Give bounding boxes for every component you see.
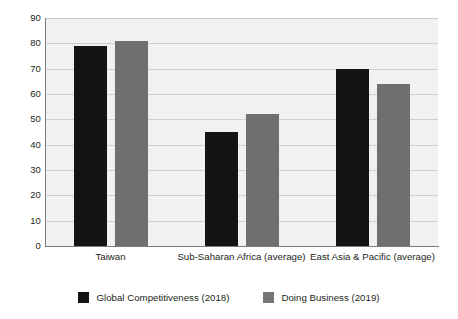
y-axis-tick-label: 70	[3, 64, 41, 74]
legend-entry: Doing Business (2019)	[263, 292, 379, 303]
legend-swatch-icon	[78, 292, 89, 303]
bar	[74, 46, 107, 246]
y-axis-tick-label: 80	[3, 38, 41, 48]
legend-entry: Global Competitiveness (2018)	[78, 292, 229, 303]
bar	[336, 69, 369, 246]
y-axis-tick-label: 90	[3, 13, 41, 23]
bars-layer	[45, 18, 438, 246]
bar	[205, 132, 238, 246]
y-axis-tick-label: 20	[3, 190, 41, 200]
y-axis-tick-label: 50	[3, 114, 41, 124]
legend-swatch-icon	[263, 292, 274, 303]
x-axis-category-labels: TaiwanSub-Saharan Africa (average)East A…	[45, 250, 438, 266]
chart-legend: Global Competitiveness (2018)Doing Busin…	[0, 288, 458, 306]
y-axis-tick-label: 30	[3, 165, 41, 175]
bar	[115, 41, 148, 246]
x-axis-category-label: East Asia & Pacific (average)	[176, 250, 458, 263]
y-axis-tick-label: 60	[3, 89, 41, 99]
y-axis-tick-label: 10	[3, 216, 41, 226]
bar	[377, 84, 410, 246]
y-axis-tick-label: 40	[3, 140, 41, 150]
y-axis-tick-labels: 9080706050403020100	[0, 0, 41, 319]
legend-label: Global Competitiveness (2018)	[96, 292, 229, 303]
x-axis-line	[45, 246, 439, 247]
bar	[246, 114, 279, 246]
legend-label: Doing Business (2019)	[281, 292, 379, 303]
bar-chart-figure: 9080706050403020100 TaiwanSub-Saharan Af…	[0, 0, 458, 319]
